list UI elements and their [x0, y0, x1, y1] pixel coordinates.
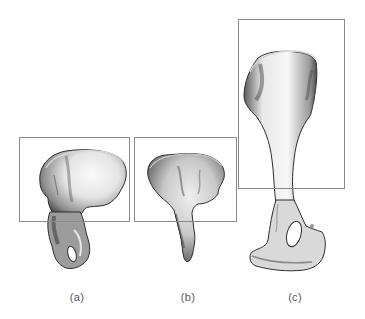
panel-label-a: (a) [62, 291, 92, 303]
bone-figure: (a) (b) (c) [0, 0, 365, 319]
figure-canvas [0, 0, 365, 319]
bone-b-illustration [148, 154, 225, 262]
bone-c-illustration [244, 51, 325, 271]
panel-label-c: (c) [280, 291, 310, 303]
panel-c [239, 20, 345, 271]
panel-a [20, 138, 130, 269]
panel-b [135, 138, 237, 262]
bone-a-illustration [40, 150, 127, 269]
panel-label-b: (b) [173, 291, 203, 303]
